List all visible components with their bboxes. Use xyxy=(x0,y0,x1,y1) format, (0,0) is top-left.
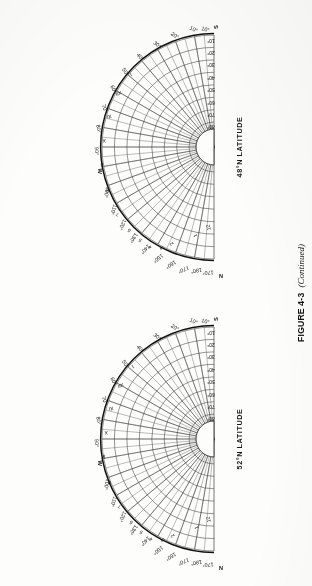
svg-text:40°: 40° xyxy=(136,344,146,354)
svg-text:10°: 10° xyxy=(201,317,210,325)
figure-number: FIGURE 4-3 xyxy=(296,293,306,342)
figure-continued-note: (Continued) xyxy=(296,244,306,293)
svg-text:30°: 30° xyxy=(152,40,162,50)
svg-text:60°: 60° xyxy=(109,376,118,386)
svg-text:1: 1 xyxy=(193,525,200,530)
svg-text:80°: 80° xyxy=(95,416,102,425)
svg-text:110°: 110° xyxy=(109,496,118,508)
svg-text:XI: XI xyxy=(106,114,112,121)
sun-path-diagram-svg-48n: 180° 170° N 170° 160° 150° 140° 130° 120… xyxy=(2,6,248,288)
svg-text:180°: 180° xyxy=(190,559,202,567)
svg-text:X: X xyxy=(104,430,108,436)
svg-text:12: 12 xyxy=(204,224,211,231)
svg-text:S: S xyxy=(213,25,219,29)
svg-text:1: 1 xyxy=(192,233,199,238)
svg-text:6: 6 xyxy=(126,227,132,234)
latitude-label-48n: 48°N LATITUDE xyxy=(235,6,244,288)
svg-text:90°: 90° xyxy=(94,147,100,155)
svg-text:40°: 40° xyxy=(207,75,215,81)
scanned-page: 180° 170° N 170° 160° 150° 140° 130° 120… xyxy=(0,0,312,586)
svg-text:160°: 160° xyxy=(165,551,178,562)
svg-text:N: N xyxy=(219,273,223,279)
svg-text:10°: 10° xyxy=(207,38,215,44)
svg-text:150°: 150° xyxy=(152,545,164,557)
latitude-label-52n: 52°N LATITUDE xyxy=(235,298,244,580)
svg-text:W: W xyxy=(97,460,103,466)
svg-text:60°: 60° xyxy=(207,392,215,398)
svg-text:30°: 30° xyxy=(152,332,162,342)
svg-text:7: 7 xyxy=(117,503,122,510)
svg-text:10°: 10° xyxy=(207,330,215,336)
svg-text:50°: 50° xyxy=(207,87,215,93)
svg-text:90°: 90° xyxy=(94,439,100,447)
svg-text:170°: 170° xyxy=(177,265,190,274)
svg-text:20°: 20° xyxy=(207,50,215,56)
svg-text:12: 12 xyxy=(204,516,211,523)
svg-text:S: S xyxy=(213,317,219,321)
svg-text:10°: 10° xyxy=(189,317,199,326)
svg-text:XI: XI xyxy=(108,406,114,413)
svg-text:20°: 20° xyxy=(207,342,215,348)
svg-text:30°: 30° xyxy=(207,62,215,68)
svg-text:180°: 180° xyxy=(190,267,202,275)
svg-text:80°: 80° xyxy=(95,124,102,133)
svg-text:60°: 60° xyxy=(207,100,215,106)
svg-text:170°: 170° xyxy=(177,557,190,566)
svg-text:170°: 170° xyxy=(202,270,213,276)
figure-caption: FIGURE 4-3(Continued) xyxy=(296,0,306,586)
svg-text:80°: 80° xyxy=(207,124,215,130)
svg-text:5: 5 xyxy=(138,529,144,536)
svg-text:120°: 120° xyxy=(117,511,128,524)
svg-text:10°: 10° xyxy=(201,25,210,33)
svg-text:70°: 70° xyxy=(207,404,215,410)
svg-text:9: 9 xyxy=(100,162,103,168)
svg-text:10°: 10° xyxy=(189,25,199,34)
svg-text:N: N xyxy=(219,565,223,571)
sun-path-charts-row: 180° 170° N 170° 160° 150° 140° 130° 120… xyxy=(2,6,260,580)
sun-path-diagram-svg-52n: 180° 170° N 170° 160° 150° 140° 130° 120… xyxy=(2,298,248,580)
svg-text:40°: 40° xyxy=(136,52,146,62)
svg-text:70°: 70° xyxy=(207,112,215,118)
svg-text:80°: 80° xyxy=(207,416,215,422)
sun-path-chart-52n: 180° 170° N 170° 160° 150° 140° 130° 120… xyxy=(2,298,260,580)
svg-text:50°: 50° xyxy=(207,379,215,385)
svg-text:120°: 120° xyxy=(117,219,128,232)
page-sheet: 180° 170° N 170° 160° 150° 140° 130° 120… xyxy=(0,0,312,586)
svg-text:9: 9 xyxy=(102,454,105,460)
svg-text:30°: 30° xyxy=(207,354,215,360)
sun-path-chart-48n: 180° 170° N 170° 160° 150° 140° 130° 120… xyxy=(2,6,260,288)
svg-text:170°: 170° xyxy=(202,562,213,568)
svg-text:40°: 40° xyxy=(207,367,215,373)
svg-text:160°: 160° xyxy=(165,259,178,270)
svg-text:150°: 150° xyxy=(152,253,164,265)
svg-text:2: 2 xyxy=(169,533,176,539)
svg-text:I: I xyxy=(131,364,135,370)
hour-numerals-48n: 4 5 6 7 8 9 X XI XII I 3 2 1 xyxy=(100,72,212,252)
svg-text:W: W xyxy=(97,168,103,174)
svg-text:6: 6 xyxy=(128,519,134,526)
svg-text:2: 2 xyxy=(168,241,175,247)
svg-text:I: I xyxy=(129,72,133,78)
